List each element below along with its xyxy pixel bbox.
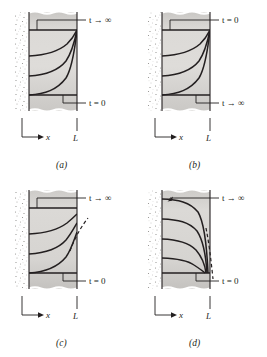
panel-c-slab [29, 190, 77, 289]
panel-d-wall-texture [147, 190, 162, 289]
panel-d-caption: (d) [189, 338, 200, 349]
panel-c-wall-texture [14, 190, 29, 289]
panel-d-label-t-zero: t = 0 [222, 276, 239, 286]
panel-c-label-L: L [72, 311, 78, 321]
panel-b-label-L: L [205, 133, 211, 143]
panel-a-label-t-infinity: t → ∞ [89, 15, 111, 25]
panel-c-label-t-infinity: t → ∞ [89, 193, 111, 203]
panel-a-wall-texture [14, 12, 29, 111]
panel-a-slab [29, 12, 77, 111]
panel-b-label-t-infinity: t → ∞ [222, 98, 244, 108]
panel-b-slab [162, 12, 210, 111]
figure-container: t → ∞ t = 0 x L (a) t = 0 t → ∞ x [0, 0, 267, 357]
temperature-profile-figure: t → ∞ t = 0 x L (a) t = 0 t → ∞ x [0, 0, 267, 357]
panel-d-label-t-infinity: t → ∞ [222, 193, 244, 203]
panel-c-caption: (c) [56, 338, 67, 349]
panel-a-axis-label-x: x [45, 132, 50, 142]
panel-d-label-L: L [205, 311, 211, 321]
panel-c-axis-label-x: x [45, 310, 50, 320]
panel-b-axis-label-x: x [178, 132, 183, 142]
panel-a-label-L: L [72, 133, 78, 143]
panel-b-wall-texture [147, 12, 162, 111]
panel-b-caption: (b) [189, 160, 200, 171]
panel-d-axis-label-x: x [178, 310, 183, 320]
panel-a-label-t-zero: t = 0 [89, 98, 106, 108]
panel-a-caption: (a) [56, 160, 67, 171]
panel-c-label-t-zero: t = 0 [89, 276, 106, 286]
panel-b-label-t-zero: t = 0 [222, 15, 239, 25]
